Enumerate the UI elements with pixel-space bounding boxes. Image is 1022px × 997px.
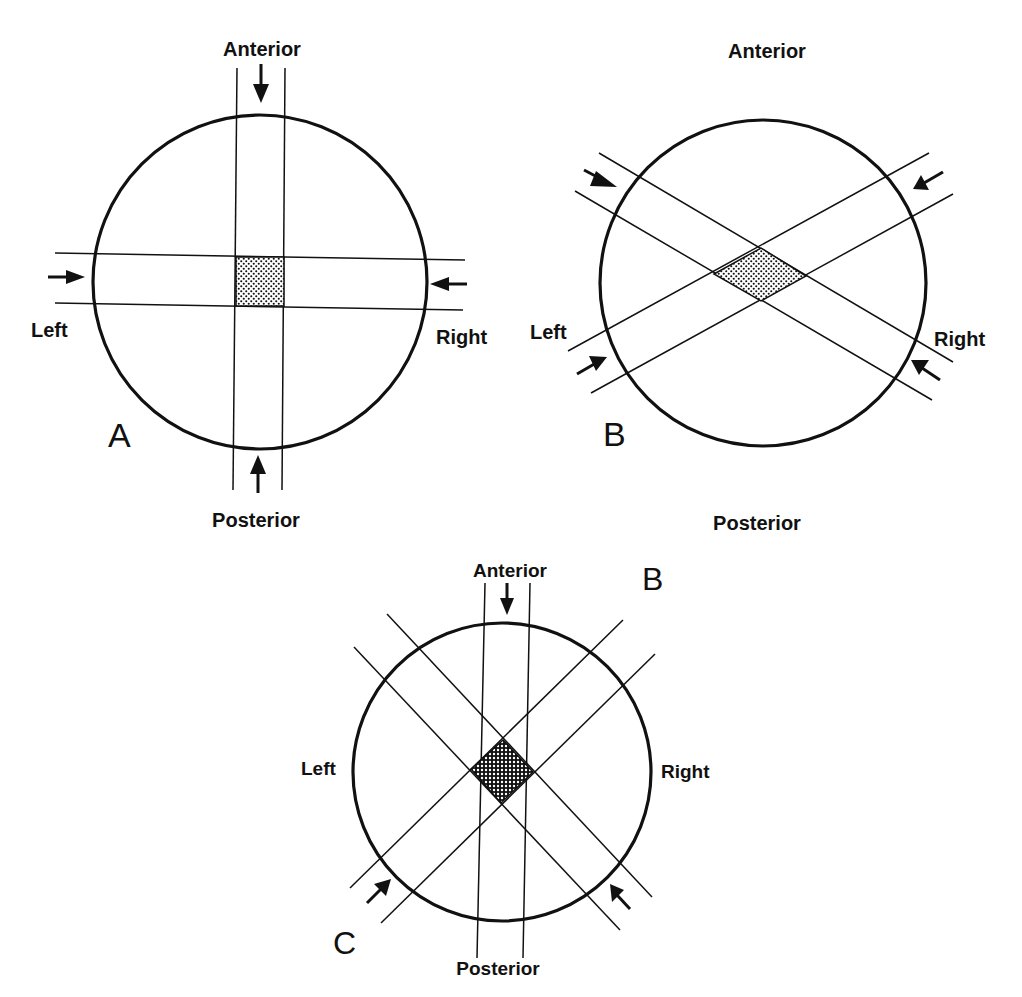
- arrow-upper-left-icon: [584, 170, 617, 187]
- arrow-left-icon: [430, 277, 467, 291]
- arrow-lower-left-icon: [367, 879, 391, 903]
- arrow-up-icon: [250, 455, 266, 493]
- beam-arrangement-figure: Anterior Posterior Left Right A: [0, 0, 1022, 997]
- label-right-c: Right: [661, 761, 710, 782]
- arrow-lower-right-icon: [911, 360, 940, 380]
- label-left-b: Left: [530, 321, 567, 343]
- panel-label-b: B: [603, 415, 626, 453]
- arrow-right-icon: [48, 270, 85, 284]
- panel-label-a: A: [108, 416, 131, 454]
- label-right-b: Right: [934, 328, 985, 350]
- panel-extra-label-c: B: [642, 561, 663, 597]
- target-overlap-b: [714, 248, 806, 301]
- beam-edge-c-diag1-lower: [354, 647, 620, 930]
- panel-c: Anterior Posterior Left Right B C: [301, 560, 710, 979]
- arrow-lower-left-icon: [577, 356, 607, 374]
- arrow-down-icon: [500, 583, 514, 615]
- panel-b: Anterior Posterior Left Right B: [530, 40, 985, 534]
- label-anterior-a: Anterior: [223, 38, 301, 60]
- label-anterior-c: Anterior: [473, 560, 548, 581]
- beam-edge-c-diag1-upper: [387, 614, 652, 897]
- target-overlap-a: [236, 257, 284, 306]
- panel-label-c: C: [333, 925, 356, 961]
- arrow-lower-right-icon: [610, 884, 630, 909]
- label-posterior-c: Posterior: [456, 958, 540, 979]
- arrow-down-icon: [253, 64, 269, 103]
- beam-edge-c-diag2-lower: [381, 654, 655, 923]
- label-posterior-a: Posterior: [212, 509, 300, 531]
- label-posterior-b: Posterior: [713, 512, 801, 534]
- label-anterior-b: Anterior: [728, 40, 806, 62]
- label-left-c: Left: [301, 758, 337, 779]
- beam-edge-b2-upper: [568, 153, 929, 351]
- panel-a: Anterior Posterior Left Right A: [31, 38, 487, 531]
- label-left-a: Left: [31, 319, 68, 341]
- arrow-upper-right-icon: [913, 172, 943, 190]
- label-right-a: Right: [436, 326, 487, 348]
